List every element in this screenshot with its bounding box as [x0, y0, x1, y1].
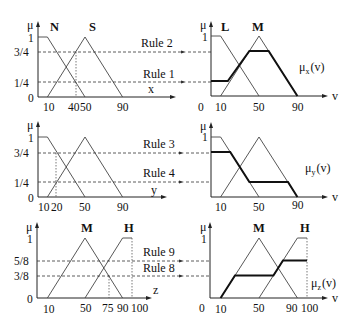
- v-tick-10: 10: [215, 201, 227, 213]
- y-tick-0: 0: [28, 92, 34, 104]
- row-x: μ 1 3/4 1/4 0 10 40 50 90 x N S Rule 2: [14, 18, 338, 113]
- y-axis-label: μ: [200, 220, 206, 234]
- set-label-S: S: [89, 20, 96, 34]
- y-tick-1: 1: [27, 233, 33, 245]
- v-axis-arrow-icon: [322, 296, 328, 300]
- y-tick-3-4: 3/4: [14, 46, 29, 58]
- set-label-H: H: [124, 221, 134, 235]
- rule-4-arrow-icon: [179, 181, 184, 184]
- row-y: μ 1 3/4 1/4 0 10 20 50 90 y Rule 3 Rule …: [14, 118, 338, 213]
- v-tick-0: 0: [199, 302, 205, 314]
- row-z: μ 1 5/8 3/8 0 10 50 75 90 100 z M H Rule…: [14, 220, 338, 315]
- set-label-M: M: [253, 221, 265, 235]
- rule-2-arrow-icon: [181, 51, 186, 54]
- y-tick-1: 1: [202, 131, 208, 143]
- v-tick-100: 100: [301, 302, 319, 314]
- rule-3-arrow-icon: [179, 152, 184, 155]
- output-panel-y: μ 1 10 50 90 v μy(v): [200, 119, 338, 213]
- mu-axis-arrow-icon: [208, 222, 212, 228]
- y-tick-1-4: 1/4: [14, 77, 29, 89]
- rule-1-arrow-icon: [181, 81, 186, 84]
- mu-axis-arrow-icon: [209, 21, 213, 27]
- y-input-axis-label: y: [151, 183, 157, 197]
- y-axis-arrow-icon: [35, 222, 39, 228]
- membership-M: [221, 238, 298, 298]
- v-tick-90: 90: [292, 101, 304, 113]
- v-tick-90: 90: [286, 302, 298, 314]
- rule-8-arrow-icon: [179, 275, 184, 278]
- x-tick-75: 75: [102, 302, 114, 314]
- aggregate-label-y: μy(v): [305, 161, 330, 177]
- rule-3-label: Rule 3: [143, 137, 175, 151]
- x-tick-10: 10: [43, 101, 55, 113]
- membership-right: [221, 137, 298, 197]
- y-tick-0: 0: [27, 293, 33, 305]
- rule-8-label: Rule 8: [143, 261, 175, 275]
- y-tick-1: 1: [201, 233, 207, 245]
- aggregate-label-x: μx(v): [299, 60, 324, 76]
- set-label-M: M: [252, 20, 264, 34]
- v-tick-50: 50: [253, 201, 265, 213]
- x-tick-20: 20: [51, 201, 63, 213]
- x-axis-label: x: [148, 82, 154, 96]
- set-label-N: N: [50, 20, 59, 34]
- rule-9-label: Rule 9: [143, 245, 175, 259]
- rule-4-label: Rule 4: [143, 166, 175, 180]
- z-axis-label: z: [153, 283, 158, 297]
- y-axis-arrow-icon: [36, 21, 40, 27]
- y-tick-5-8: 5/8: [14, 255, 29, 267]
- membership-S: [47, 37, 122, 97]
- set-label-L: L: [221, 20, 229, 34]
- x-axis-arrow-icon: [161, 195, 167, 199]
- v-axis-label: v: [332, 190, 338, 204]
- y-axis-arrow-icon: [36, 121, 40, 127]
- rule-9-arrow-icon: [179, 260, 184, 263]
- fuzzy-inference-diagram: μ 1 3/4 1/4 0 10 40 50 90 x N S Rule 2: [0, 0, 354, 330]
- rule-lines-x: Rule 2 Rule 1: [38, 36, 211, 84]
- aggregate-label-z: μz(v): [311, 276, 336, 292]
- v-tick-90: 90: [292, 199, 304, 211]
- x-tick-90: 90: [117, 101, 129, 113]
- membership-M: [47, 238, 122, 298]
- membership-right: [47, 137, 122, 197]
- x-axis-arrow-icon: [170, 95, 176, 99]
- output-panel-z: μ 1 0 10 50 90 100 v M H μz(v): [199, 220, 338, 315]
- y-axis-label: μ: [26, 220, 32, 234]
- v-axis-arrow-icon: [322, 94, 328, 98]
- rule-2-label: Rule 2: [141, 36, 173, 50]
- y-tick-3-4: 3/4: [14, 147, 29, 159]
- y-tick-1-4: 1/4: [14, 177, 29, 189]
- v-axis-label: v: [332, 89, 338, 103]
- input-panel-z: μ 1 5/8 3/8 0 10 50 75 90 100 z M H: [14, 220, 158, 315]
- x-tick-50: 50: [80, 302, 92, 314]
- set-label-M: M: [81, 221, 93, 235]
- set-label-H: H: [300, 221, 310, 235]
- y-tick-1: 1: [28, 32, 34, 44]
- x-tick-90: 90: [117, 302, 129, 314]
- x-tick-50: 50: [79, 201, 91, 213]
- v-tick-50: 50: [253, 101, 265, 113]
- membership-L: [211, 36, 259, 96]
- membership-N: [38, 37, 85, 97]
- membership-M: [221, 36, 298, 96]
- y-tick-3-8: 3/8: [14, 270, 29, 282]
- y-axis-label: μ: [27, 118, 33, 132]
- v-tick-10: 10: [215, 101, 227, 113]
- x-tick-10: 10: [43, 303, 55, 315]
- output-panel-x: μ 1 0 10 50 90 v L M μx(v): [198, 18, 338, 113]
- v-tick-10: 10: [215, 303, 227, 315]
- x-tick-100: 100: [131, 302, 149, 314]
- membership-H: [85, 238, 132, 298]
- x-tick-50: 50: [80, 101, 92, 113]
- x-tick-90: 90: [117, 201, 129, 213]
- y-tick-1: 1: [28, 132, 34, 144]
- y-axis-label: μ: [200, 18, 206, 32]
- x-tick-40: 40: [68, 101, 80, 113]
- z-axis-arrow-icon: [146, 296, 152, 300]
- rule-lines-y: Rule 3 Rule 4: [38, 137, 211, 184]
- membership-left: [38, 137, 85, 197]
- v-axis-label: v: [332, 291, 338, 305]
- y-axis-label: μ: [27, 18, 33, 32]
- v-axis-arrow-icon: [322, 195, 328, 199]
- v-tick-50: 50: [253, 302, 265, 314]
